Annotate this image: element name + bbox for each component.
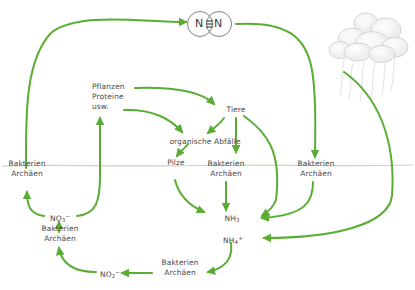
plants-label-line1: Pflanzen bbox=[92, 82, 125, 91]
arrow-ammonium-to-bacteria-bottom bbox=[208, 243, 231, 272]
n2-left-atom: N bbox=[195, 17, 204, 30]
nitrate-formula: NO bbox=[50, 214, 62, 223]
arrow-plants-to-animals bbox=[135, 88, 214, 104]
ammonia-label: NH3 bbox=[224, 214, 239, 225]
n2-right-atom: N bbox=[214, 17, 223, 30]
arrow-animals-to-ammonia bbox=[244, 116, 277, 216]
ammonium-superscript: + bbox=[238, 235, 243, 241]
arrow-n2-to-bacteria-right bbox=[236, 24, 315, 157]
ammonium-formula: NH bbox=[223, 236, 234, 245]
bacteria-right-line1: Bakterien bbox=[297, 159, 334, 168]
arrow-bacteria-right-to-ammonia bbox=[262, 182, 313, 218]
ammonia-subscript: 3 bbox=[236, 217, 240, 223]
plants-label-line2: Proteine bbox=[92, 92, 124, 101]
arrow-nitrite-to-bacteria-nitrate bbox=[59, 248, 96, 272]
arrow-rain-to-ammonium bbox=[264, 72, 393, 238]
bacteria-left-line2: Archäen bbox=[11, 169, 43, 178]
rain-cloud-icon bbox=[329, 13, 408, 101]
fungi-label: Pilze bbox=[167, 158, 185, 167]
bacteria-right-line2: Archäen bbox=[300, 169, 332, 178]
nitrate-superscript: − bbox=[65, 213, 70, 219]
plants-label-line3: usw. bbox=[92, 102, 109, 111]
arrow-plants-to-waste bbox=[124, 110, 182, 132]
arrow-nitrate-to-bacteria-left bbox=[27, 192, 44, 216]
ammonium-label: NH4+ bbox=[223, 234, 243, 247]
arrow-animals-to-waste bbox=[208, 118, 224, 133]
nitrite-superscript: − bbox=[115, 269, 120, 275]
bacteria-bottom-line2: Archäen bbox=[164, 268, 196, 277]
bacteria-center-line1: Bakterien bbox=[207, 159, 244, 168]
nitrogen-cycle-diagram: N N Pflanzen Proteine usw. Tiere organis… bbox=[0, 0, 415, 290]
bacteria-bottom-line1: Bakterien bbox=[161, 258, 198, 267]
nitrite-formula: NO bbox=[100, 270, 112, 279]
bacteria-left-line1: Bakterien bbox=[8, 159, 45, 168]
nitrite-label: NO2− bbox=[100, 268, 120, 281]
bacteria-nitrate-line1: Bakterien bbox=[41, 224, 78, 233]
ammonia-formula: NH bbox=[224, 214, 235, 223]
bacteria-nitrate-line2: Archäen bbox=[44, 234, 76, 243]
animals-label: Tiere bbox=[226, 105, 245, 114]
arrow-nitrate-to-plants bbox=[77, 118, 100, 216]
arrow-fungi-to-ammonia bbox=[175, 180, 204, 212]
bacteria-center-line2: Archäen bbox=[210, 169, 242, 178]
organic-waste-label: organische Abfälle bbox=[169, 137, 240, 146]
